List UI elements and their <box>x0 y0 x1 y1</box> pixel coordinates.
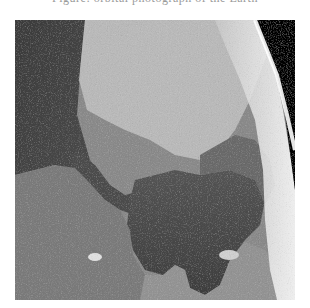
cloud-patch-2 <box>219 250 239 260</box>
caption-text: Figure: orbital photograph of the Earth <box>52 0 258 5</box>
photo-illustration <box>15 20 295 300</box>
earth-orbital-photo <box>15 20 295 300</box>
figure-caption-cropped: Figure: orbital photograph of the Earth <box>0 0 310 5</box>
cloud-patch <box>88 253 102 261</box>
